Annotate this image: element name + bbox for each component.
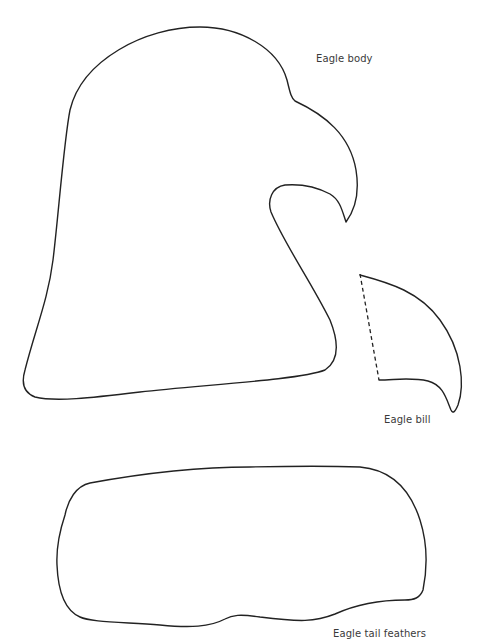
- eagle-body-outline: [23, 27, 357, 399]
- eagle-bill-label: Eagle bill: [384, 414, 431, 425]
- eagle-bill-fold-line: [360, 274, 379, 380]
- eagle-tail-feathers-outline: [57, 466, 426, 626]
- eagle-body-label: Eagle body: [316, 53, 373, 64]
- eagle-bill-outline: [360, 275, 461, 412]
- template-outlines: [0, 0, 480, 644]
- eagle-tail-feathers-label: Eagle tail feathers: [333, 628, 426, 639]
- craft-template-page: Eagle body Eagle bill Eagle tail feather…: [0, 0, 480, 644]
